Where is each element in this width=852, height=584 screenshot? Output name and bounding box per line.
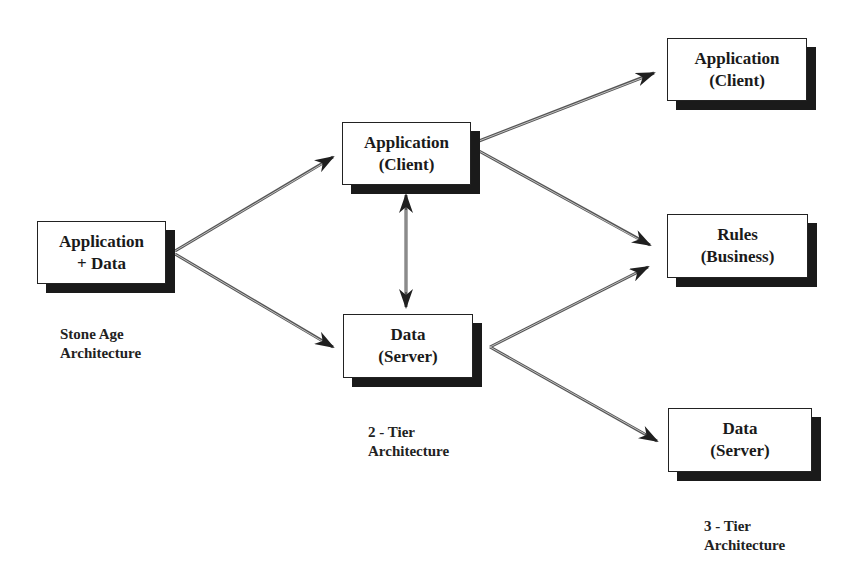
- caption-line1: 2 - Tier: [368, 423, 449, 442]
- box-label-line1: Application: [59, 231, 144, 253]
- box-label-line2: (Client): [379, 154, 435, 176]
- caption-line2: Architecture: [704, 536, 785, 555]
- box-label-line1: Rules: [717, 224, 758, 246]
- caption-2-tier: 2 - Tier Architecture: [368, 423, 449, 461]
- box-3tier-application-client: Application (Client): [667, 38, 807, 101]
- box-label-line1: Application: [694, 48, 779, 70]
- box-2tier-application-client: Application (Client): [342, 122, 471, 185]
- caption-line2: Architecture: [60, 344, 141, 363]
- box-label-line2: (Server): [378, 346, 437, 368]
- box-label-line2: (Business): [701, 246, 775, 268]
- caption-line1: Stone Age: [60, 325, 141, 344]
- caption-3-tier: 3 - Tier Architecture: [704, 517, 785, 555]
- box-3tier-data-server: Data (Server): [668, 408, 812, 472]
- caption-stone-age: Stone Age Architecture: [60, 325, 141, 363]
- box-label-line1: Data: [723, 418, 758, 440]
- box-label-line2: + Data: [77, 253, 126, 275]
- box-application-data: Application + Data: [37, 221, 166, 284]
- box-label-line2: (Client): [709, 70, 765, 92]
- box-label-line2: (Server): [710, 440, 769, 462]
- box-label-line1: Application: [364, 132, 449, 154]
- caption-line2: Architecture: [368, 442, 449, 461]
- box-2tier-data-server: Data (Server): [343, 314, 473, 378]
- box-label-line1: Data: [391, 324, 426, 346]
- caption-line1: 3 - Tier: [704, 517, 785, 536]
- box-3tier-rules-business: Rules (Business): [667, 214, 808, 278]
